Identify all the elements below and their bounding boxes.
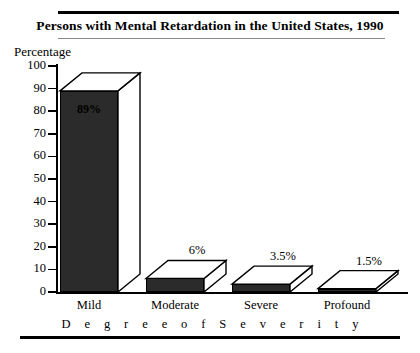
x-axis-category-label: Moderate — [138, 298, 212, 313]
figure: Persons with Mental Retardation in the U… — [0, 0, 420, 353]
x-axis-category-label: Profound — [310, 298, 384, 313]
plot-area: 0102030405060708090100 89%6%3.5%1.5% Mil… — [0, 0, 420, 353]
bar-front-face — [318, 289, 376, 292]
bar-value-label: 1.5% — [340, 254, 398, 269]
footer-rule-bottom — [20, 336, 400, 339]
x-axis-title: D e g r e e o f S e v e r i t y — [0, 317, 420, 332]
x-axis-category-label: Mild — [52, 298, 126, 313]
x-axis-category-label: Severe — [224, 298, 298, 313]
